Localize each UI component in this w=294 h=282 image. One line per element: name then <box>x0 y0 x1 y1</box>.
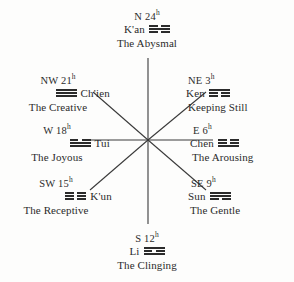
node-sw-hour-unit: h <box>69 175 73 184</box>
node-w-name: Tui <box>95 137 111 150</box>
node-s-hour: 12 <box>144 233 155 244</box>
trigram-compass-diagram: N 24h K'an The Abysmal NE 3h Ken Keeping… <box>0 0 294 282</box>
node-w-direction-label: W <box>43 125 53 136</box>
node-s-name-row: Li <box>97 245 197 258</box>
node-nw-hour: 21 <box>61 75 72 86</box>
node-ne-name-row: Ken <box>186 87 290 100</box>
node-e-description: The Arousing <box>190 151 294 164</box>
node-se-name: Sun <box>188 190 206 203</box>
ken-trigram-icon <box>209 87 230 99</box>
node-se-hour-unit: h <box>212 175 216 184</box>
node-n-direction: N 24h <box>97 8 197 23</box>
node-ne-name: Ken <box>186 87 205 100</box>
node-n-hour-unit: h <box>156 8 160 17</box>
node-s-description: The Clinging <box>97 259 197 272</box>
node-s-direction: S 12h <box>97 230 197 245</box>
sun-trigram-icon <box>210 190 231 202</box>
node-s-name: Li <box>129 245 139 258</box>
node-se-description: The Gentle <box>188 204 294 217</box>
node-nw-hour-unit: h <box>72 72 76 81</box>
node-nw: NW 21h Ch'ien The Creative <box>6 72 110 114</box>
node-nw-description: The Creative <box>6 101 110 114</box>
node-w-hour-unit: h <box>67 122 71 131</box>
node-nw-name-row: Ch'ien <box>6 87 110 100</box>
node-se-direction: SE 9h <box>188 175 294 190</box>
node-sw: SW 15h K'un The Receptive <box>0 175 112 217</box>
li-trigram-icon <box>144 245 165 257</box>
node-e-name: Chen <box>190 137 214 150</box>
node-ne: NE 3h Ken Keeping Still <box>186 72 290 114</box>
tui-trigram-icon <box>70 137 91 149</box>
node-e-name-row: Chen <box>190 137 294 150</box>
node-w-direction: W 18h <box>4 122 110 137</box>
node-ne-hour-unit: h <box>211 72 215 81</box>
node-s: S 12h Li The Clinging <box>97 230 197 272</box>
node-nw-name: Ch'ien <box>81 87 110 100</box>
node-sw-hour: 15 <box>58 178 69 189</box>
node-sw-direction: SW 15h <box>0 175 112 190</box>
node-n-name-row: K'an <box>97 23 197 36</box>
node-n-hour: 24 <box>145 11 156 22</box>
node-ne-description: Keeping Still <box>186 101 290 114</box>
node-se: SE 9h Sun The Gentle <box>188 175 294 217</box>
node-sw-name-row: K'un <box>0 190 112 203</box>
node-sw-description: The Receptive <box>0 204 112 217</box>
node-nw-direction-label: NW <box>40 75 58 86</box>
node-w-description: The Joyous <box>4 151 110 164</box>
node-e-direction-label: E <box>193 125 200 136</box>
node-w: W 18h Tui The Joyous <box>4 122 110 164</box>
node-e-direction: E 6h <box>190 122 294 137</box>
node-e-hour-unit: h <box>208 122 212 131</box>
node-ne-direction: NE 3h <box>186 72 290 87</box>
node-w-hour: 18 <box>56 125 67 136</box>
node-n-description: The Abysmal <box>97 37 197 50</box>
node-e: E 6h Chen The Arousing <box>190 122 294 164</box>
node-sw-name: K'un <box>90 190 112 203</box>
node-w-name-row: Tui <box>4 137 110 150</box>
node-n: N 24h K'an The Abysmal <box>97 8 197 50</box>
node-se-direction-label: SE <box>191 178 204 189</box>
node-nw-direction: NW 21h <box>6 72 110 87</box>
node-n-direction-label: N <box>134 11 142 22</box>
node-s-hour-unit: h <box>155 230 159 239</box>
chen-trigram-icon <box>218 137 239 149</box>
chien-trigram-icon <box>56 87 77 99</box>
kan-trigram-icon <box>149 23 170 35</box>
kun-trigram-icon <box>65 190 86 202</box>
node-s-direction-label: S <box>135 233 141 244</box>
node-se-name-row: Sun <box>188 190 294 203</box>
node-sw-direction-label: SW <box>39 178 55 189</box>
node-n-name: K'an <box>124 23 145 36</box>
node-ne-direction-label: NE <box>188 75 202 86</box>
